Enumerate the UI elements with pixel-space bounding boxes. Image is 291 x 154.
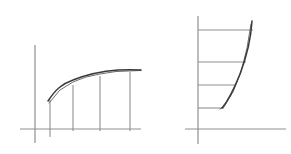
figure-svg: [0, 0, 291, 154]
figure-canvas: [0, 0, 291, 154]
background-rect: [0, 0, 291, 154]
